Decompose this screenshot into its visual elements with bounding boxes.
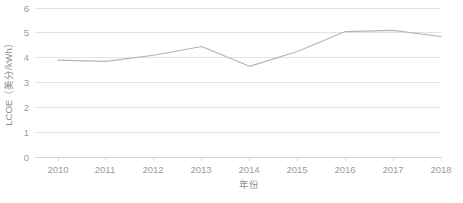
x-tick-label-2013: 2013 xyxy=(190,164,211,175)
y-tick-label-5: 5 xyxy=(24,27,29,38)
x-axis-tick-labels: 2010 2011 2012 2013 2014 2015 2016 2017 … xyxy=(47,164,451,175)
x-tick-label-2012: 2012 xyxy=(142,164,163,175)
data-series-lcoe xyxy=(58,30,441,66)
caption-svg xyxy=(0,193,463,203)
x-tick-label-2017: 2017 xyxy=(382,164,403,175)
x-tick-label-2016: 2016 xyxy=(334,164,355,175)
x-tick-label-2018: 2018 xyxy=(430,164,451,175)
x-tick-label-2014: 2014 xyxy=(238,164,259,175)
y-tick-label-3: 3 xyxy=(24,77,29,88)
x-tick-label-2010: 2010 xyxy=(47,164,68,175)
y-tick-label-1: 1 xyxy=(24,127,29,138)
x-axis-title: 年份 xyxy=(239,179,259,190)
y-axis-tick-labels: 6 5 4 3 2 1 0 xyxy=(24,3,29,163)
y-axis-title: LCOE（美分/kWh） xyxy=(3,38,14,126)
y-tick-label-2: 2 xyxy=(24,102,29,113)
x-tick-label-2011: 2011 xyxy=(95,164,115,175)
chart-container: 6 5 4 3 2 1 0 2010 2011 2012 2013 2014 2… xyxy=(0,0,463,203)
x-tick-label-2015: 2015 xyxy=(286,164,307,175)
line-chart: 6 5 4 3 2 1 0 2010 2011 2012 2013 2014 2… xyxy=(0,0,463,203)
x-axis-tickmarks xyxy=(58,157,441,161)
figure-caption-clipped xyxy=(0,191,463,203)
y-tick-label-4: 4 xyxy=(24,52,29,63)
y-tick-label-0: 0 xyxy=(24,152,29,163)
y-tick-label-6: 6 xyxy=(24,3,29,14)
